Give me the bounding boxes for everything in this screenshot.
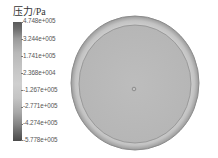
center-point bbox=[132, 87, 136, 91]
inner-disk bbox=[79, 25, 191, 143]
pressure-contour-plot bbox=[0, 0, 218, 158]
